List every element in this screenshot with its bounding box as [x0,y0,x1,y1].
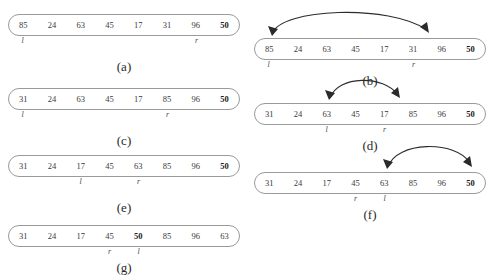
array-cell-pivot: 50 [456,179,485,188]
array-cell-pivot: 50 [210,162,239,171]
array-cells: 85 24 63 45 17 31 96 50 [255,39,485,59]
array-cell: 63 [124,162,153,171]
array-cell: 24 [38,21,67,30]
pointer-row: l r [8,36,240,48]
pointer-label-r: r [399,61,428,69]
swap-arc-f [254,138,486,174]
array-cells: 31 24 63 45 17 85 96 50 [9,89,239,109]
array-cell: 85 [9,21,38,30]
pointer-row: l r [8,110,240,122]
array-cell-pivot: 50 [456,45,485,54]
array-cell: 45 [341,179,370,188]
array-capsule: 31 24 63 45 17 85 96 50 [8,88,240,110]
array-cell: 45 [95,162,124,171]
array-cell: 85 [153,95,182,104]
array-cell: 96 [182,21,211,30]
pointer-label-l: l [370,195,399,203]
array-cell: 31 [9,95,38,104]
array-cell: 17 [124,21,153,30]
array-capsule: 31 24 17 45 50 85 96 63 [8,225,240,247]
array-cell: 63 [67,21,96,30]
pointer-label-r: r [124,178,153,186]
array-cell: 17 [313,179,342,188]
array-cell: 63 [210,232,239,241]
array-cell: 24 [38,162,67,171]
array-capsule: 31 24 17 45 63 85 96 50 [254,172,486,194]
array-cell: 85 [399,110,428,119]
panel-caption: (g) [8,261,240,274]
array-cell: 24 [284,179,313,188]
array-cell: 24 [38,95,67,104]
array-cell: 45 [95,232,124,241]
panel-caption: (a) [8,60,240,73]
array-cell: 31 [153,21,182,30]
array-cell: 31 [399,45,428,54]
array-cell: 24 [38,232,67,241]
array-cells: 31 24 63 45 17 85 96 50 [255,104,485,124]
array-cell: 63 [370,179,399,188]
array-cell: 31 [9,232,38,241]
panel-a: 85 24 63 45 17 31 96 50 l r (a) [8,14,240,73]
array-cells: 31 24 17 45 63 85 96 50 [9,156,239,176]
panel-c: 31 24 63 45 17 85 96 50 l r (c) [8,88,240,147]
array-cell: 96 [182,232,211,241]
pointer-label-r: r [95,248,124,256]
array-cell: 96 [428,45,457,54]
array-capsule: 31 24 63 45 17 85 96 50 [254,103,486,125]
array-capsule: 85 24 63 45 17 31 96 50 [254,38,486,60]
pointer-label-l: l [312,126,341,134]
pointer-label-r: r [153,111,182,119]
panel-caption: (c) [8,134,240,147]
array-cell-pivot: 50 [210,21,239,30]
array-cell: 24 [284,110,313,119]
pointer-row: l r [8,177,240,189]
array-cell: 85 [255,45,284,54]
pointer-label-l: l [8,37,37,45]
array-cell: 17 [67,162,96,171]
array-cell: 31 [9,162,38,171]
array-cell: 24 [284,45,313,54]
panel-g: 31 24 17 45 50 85 96 63 r l (g) [8,225,240,274]
array-cell: 96 [182,162,211,171]
array-cell: 31 [255,179,284,188]
array-cells: 31 24 17 45 63 85 96 50 [255,173,485,193]
pointer-label-l: l [254,61,283,69]
array-cell: 85 [153,232,182,241]
panel-f: 31 24 17 45 63 85 96 50 r l (f) [254,172,486,221]
array-cell: 45 [341,45,370,54]
quicksort-partition-figure: 85 24 63 45 17 31 96 50 l r (a) 31 24 63… [0,0,494,278]
array-capsule: 31 24 17 45 63 85 96 50 [8,155,240,177]
pointer-label-l: l [8,111,37,119]
array-cell: 85 [153,162,182,171]
pointer-row: r l [8,247,240,259]
array-cell: 63 [313,45,342,54]
array-cell: 17 [370,45,399,54]
array-cell-pivot: 50 [456,110,485,119]
array-cell: 17 [124,95,153,104]
array-cell: 63 [313,110,342,119]
array-cell: 45 [95,21,124,30]
pointer-label-r: r [182,37,211,45]
panel-caption: (e) [8,201,240,214]
array-cell: 96 [182,95,211,104]
swap-arc-d [254,69,486,105]
panel-caption: (f) [254,208,486,221]
panel-e: 31 24 17 45 63 85 96 50 l r (e) [8,155,240,214]
pointer-label-l: l [66,178,95,186]
pointer-row: r l [254,194,486,206]
array-cell-pivot: 50 [124,232,153,241]
array-cells: 85 24 63 45 17 31 96 50 [9,15,239,35]
array-capsule: 85 24 63 45 17 31 96 50 [8,14,240,36]
array-cell: 96 [428,110,457,119]
pointer-label-l: l [124,248,153,256]
pointer-label-r: r [370,126,399,134]
array-cell: 45 [95,95,124,104]
swap-arc-b [254,4,486,40]
pointer-row: l r [254,125,486,137]
array-cell: 17 [67,232,96,241]
array-cell: 45 [341,110,370,119]
array-cell: 85 [399,179,428,188]
array-cell: 31 [255,110,284,119]
array-cell: 63 [67,95,96,104]
array-cell: 17 [370,110,399,119]
